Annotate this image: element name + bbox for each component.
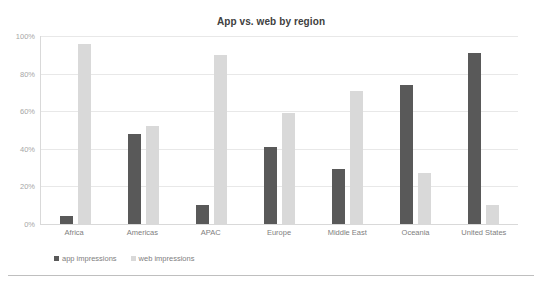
bar-group [314,36,382,224]
bar-web[interactable] [350,91,363,224]
bar-web[interactable] [78,44,91,224]
legend-item[interactable]: app impressions [54,254,117,263]
footer-divider [8,275,534,276]
plot-area [40,36,518,225]
bar-app[interactable] [400,85,413,224]
bar-web[interactable] [214,55,227,224]
chart-legend: app impressionsweb impressions [54,254,194,263]
legend-label: app impressions [62,254,117,263]
bar-group [450,36,518,224]
bar-web[interactable] [146,126,159,224]
bar-app[interactable] [196,205,209,224]
legend-swatch-icon [131,256,136,261]
bar-app[interactable] [60,216,73,224]
bar-app[interactable] [332,169,345,224]
bars-layer [41,36,518,224]
bar-app[interactable] [128,134,141,224]
legend-swatch-icon [54,256,59,261]
x-axis-tick: Africa [40,228,108,237]
bar-web[interactable] [486,205,499,224]
x-axis-tick: Americas [108,228,176,237]
clipped-text [0,0,2,1]
chart-title: App vs. web by region [0,16,542,27]
bar-web[interactable] [418,173,431,224]
bar-group [245,36,313,224]
x-axis-tick: United States [450,228,518,237]
x-axis-tick: Oceania [381,228,449,237]
chart-card: App vs. web by region 0%20%40%60%80%100%… [0,6,542,271]
legend-item[interactable]: web impressions [131,254,195,263]
bar-group [109,36,177,224]
y-axis-tick: 40% [20,144,35,153]
bar-app[interactable] [264,147,277,224]
bar-web[interactable] [282,113,295,224]
x-axis-tick: APAC [177,228,245,237]
bar-group [41,36,109,224]
bar-group [382,36,450,224]
y-axis-tick: 80% [20,69,35,78]
y-axis-tick: 20% [20,182,35,191]
bar-app[interactable] [468,53,481,224]
x-axis: AfricaAmericasAPACEuropeMiddle EastOcean… [40,228,518,237]
y-axis-tick: 0% [24,220,35,229]
y-axis-tick: 100% [16,32,35,41]
y-axis: 0%20%40%60%80%100% [8,32,38,224]
bar-group [177,36,245,224]
legend-label: web impressions [139,254,195,263]
x-axis-tick: Europe [245,228,313,237]
plot-wrapper: 0%20%40%60%80%100% AfricaAmericasAPACEur… [8,32,534,230]
x-axis-tick: Middle East [313,228,381,237]
y-axis-tick: 60% [20,107,35,116]
